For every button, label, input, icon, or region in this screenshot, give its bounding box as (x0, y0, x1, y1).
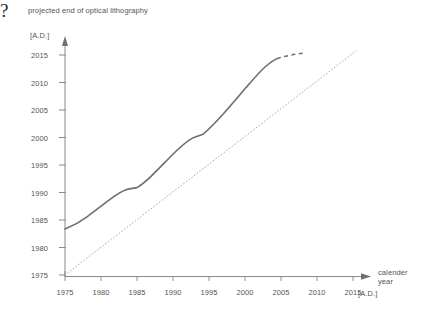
x-axis-label-line: calender (378, 268, 408, 277)
chart-title: projected end of optical lithography (28, 6, 148, 15)
y-tick-label-1985: 1985 (14, 216, 48, 225)
x-axis-label: calenderyear (378, 268, 408, 286)
reference-line-y-equals-x (65, 51, 356, 275)
y-tick-label-2000: 2000 (14, 134, 48, 143)
x-axis-label-line: year (378, 277, 393, 286)
y-tick-label-1975: 1975 (14, 271, 48, 280)
y-tick-label-1990: 1990 (14, 189, 48, 198)
x-tick-label-2005: 2005 (266, 288, 296, 297)
x-tick-label-2000: 2000 (230, 288, 260, 297)
y-axis (62, 36, 68, 277)
y-tick-label-2010: 2010 (14, 79, 48, 88)
projected-end-curve (65, 59, 277, 229)
x-axis (65, 273, 371, 279)
x-tick-label-1995: 1995 (194, 288, 224, 297)
x-tick-label-2010: 2010 (302, 288, 332, 297)
y-tick-label-2015: 2015 (14, 51, 48, 60)
projected-end-curve-extrapolation (277, 53, 306, 59)
x-tick-label-1985: 1985 (122, 288, 152, 297)
y-tick-label-2005: 2005 (14, 106, 48, 115)
x-tick-label-1975: 1975 (50, 288, 80, 297)
chart-figure (0, 0, 422, 319)
y-tick-label-1995: 1995 (14, 161, 48, 170)
y-tick-label-1980: 1980 (14, 244, 48, 253)
x-tick-label-1980: 1980 (86, 288, 116, 297)
x-axis-unit-label: [A.D.] (358, 289, 377, 298)
y-axis-unit-label: [A.D.] (30, 31, 49, 40)
x-tick-label-1990: 1990 (158, 288, 188, 297)
